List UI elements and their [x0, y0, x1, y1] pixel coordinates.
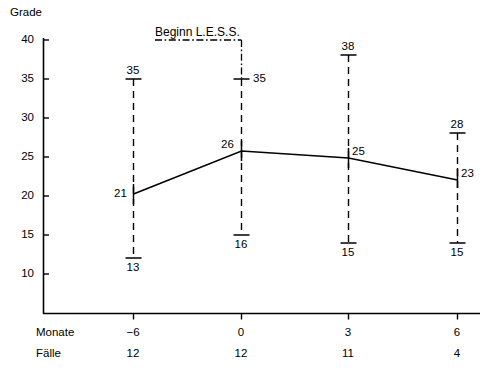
mean-value-label-month--6: 21: [114, 188, 127, 200]
y-axis-title: Grade: [10, 7, 42, 19]
y-tick-label-10: 10: [12, 268, 34, 280]
mean-value-label-month-0: 26: [221, 139, 234, 151]
cases-value-month-0: 12: [221, 348, 261, 360]
min-value-label-month-6: 15: [442, 247, 472, 259]
row-header-monate: Monate: [36, 327, 74, 339]
x-tick-label-6: 6: [437, 327, 477, 339]
error-bar-month-6: [450, 133, 466, 243]
x-axis-ticks: [134, 314, 458, 320]
x-tick-label-3: 3: [328, 327, 368, 339]
y-axis-ticks: [44, 40, 50, 274]
x-tick-label-minus6: −6: [113, 327, 153, 339]
min-value-label-month--6: 13: [118, 262, 148, 274]
min-value-label-month-3: 15: [333, 247, 363, 259]
max-value-label-month--6: 35: [118, 65, 148, 77]
x-tick-label-0: 0: [221, 327, 261, 339]
error-bar-month--6: [126, 79, 142, 258]
y-tick-label-30: 30: [12, 112, 34, 124]
row-header-faelle: Fälle: [36, 348, 61, 360]
cases-value-month-3: 11: [328, 348, 368, 360]
y-tick-label-20: 20: [12, 190, 34, 202]
max-value-label-month-6: 28: [442, 119, 472, 131]
max-value-label-month-0: 35: [253, 73, 266, 85]
cases-value-month-6: 4: [437, 348, 477, 360]
min-value-label-month-0: 16: [226, 239, 256, 251]
annotation-beginn-less: Beginn L.E.S.S.: [155, 26, 240, 38]
chart-plot-area: [0, 0, 489, 370]
error-bar-month-0: [234, 79, 250, 235]
cases-value-month--6: 12: [113, 348, 153, 360]
mean-series-line: [134, 151, 458, 194]
y-tick-label-15: 15: [12, 229, 34, 241]
chart-container: Grade 40 35 30 25 20 15 10 Beginn L.E.S.…: [0, 0, 489, 370]
error-bars: [126, 55, 466, 258]
mean-value-label-month-6: 23: [461, 168, 474, 180]
y-tick-label-40: 40: [12, 34, 34, 46]
mean-value-label-month-3: 25: [352, 146, 365, 158]
max-value-label-month-3: 38: [333, 41, 363, 53]
y-tick-label-25: 25: [12, 151, 34, 163]
y-tick-label-35: 35: [12, 73, 34, 85]
